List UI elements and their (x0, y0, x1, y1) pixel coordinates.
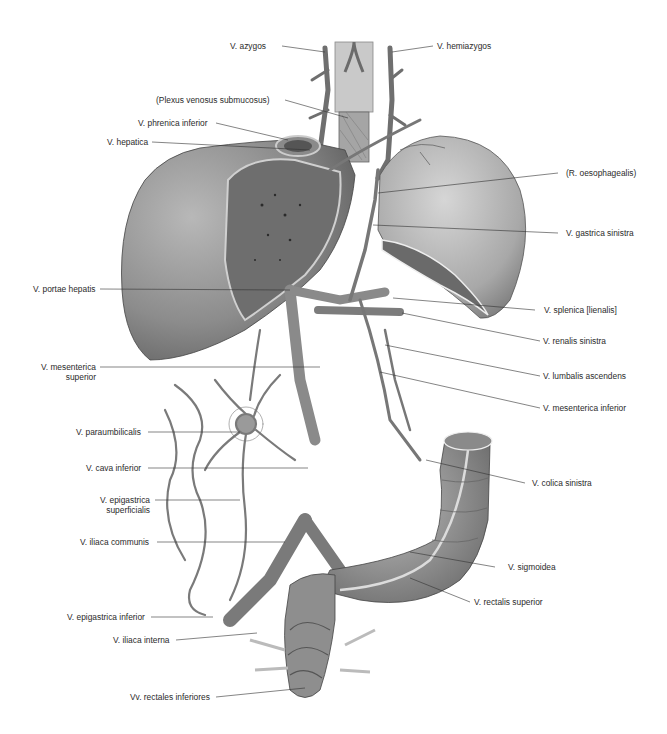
label-v-portae-hepatis: V. portae hepatis (33, 284, 96, 294)
label-v-iliaca-communis: V. iliaca communis (80, 537, 149, 547)
label-v-epigastrica-superficialis: V. epigastrica superficialis (90, 495, 150, 515)
label-line-2: superficialis (90, 505, 150, 515)
label-plexus-venosus-submucosus: (Plexus venosus submucosus) (156, 95, 270, 105)
label-v-gastrica-sinistra: V. gastrica sinistra (566, 228, 634, 238)
label-v-rectalis-superior: V. rectalis superior (474, 597, 543, 607)
descending-sigmoid-colon (320, 432, 492, 603)
label-v-lumbalis-ascendens: V. lumbalis ascendens (543, 371, 626, 381)
label-v-splenica: V. splenica [lienalis] (544, 305, 617, 315)
label-v-phrenica-inferior: V. phrenica inferior (138, 118, 208, 128)
label-v-epigastrica-inferior: V. epigastrica inferior (67, 612, 145, 622)
label-line-2: superior (34, 372, 96, 382)
label-v-mesenterica-superior: V. mesenterica superior (34, 362, 96, 382)
label-line-1: V. mesenterica (34, 362, 96, 372)
label-v-renalis-sinistra: V. renalis sinistra (543, 336, 606, 346)
label-v-cava-inferior: V. cava inferior (86, 463, 141, 473)
label-v-mesenterica-inferior: V. mesenterica inferior (543, 403, 626, 413)
label-v-colica-sinistra: V. colica sinistra (532, 478, 592, 488)
label-v-sigmoidea: V. sigmoidea (508, 562, 556, 572)
oesophagus (335, 42, 373, 162)
label-vv-rectales-inferiores: Vv. rectales inferiores (130, 692, 210, 702)
label-v-azygos: V. azygos (230, 41, 266, 51)
label-v-paraumbilicalis: V. paraumbilicalis (76, 427, 141, 437)
label-r-oesophagealis: (R. oesophagealis) (566, 168, 636, 178)
stomach (378, 136, 526, 318)
liver (121, 136, 355, 360)
portal-system-illustration (0, 0, 667, 734)
label-v-iliaca-interna: V. iliaca interna (113, 635, 170, 645)
label-v-hepatica: V. hepatica (107, 137, 148, 147)
label-v-hemiazygos: V. hemiazygos (437, 41, 491, 51)
label-line-1: V. epigastrica (90, 495, 150, 505)
